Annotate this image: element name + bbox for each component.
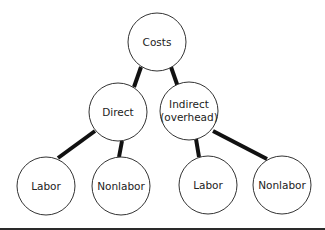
node-direct: Direct — [89, 83, 147, 141]
edge-indirect-nonlabor — [213, 131, 267, 159]
bottom-divider — [0, 228, 325, 230]
edge-direct-nonlabor — [119, 141, 122, 157]
node-direct-label: Direct — [102, 106, 133, 118]
edge-indirect-labor — [196, 139, 199, 157]
edge-direct-labor — [58, 131, 95, 158]
node-indirect-nonlabor: Nonlabor — [253, 156, 311, 214]
edge-costs-direct — [134, 67, 141, 87]
node-indirect-labor: Labor — [179, 156, 237, 214]
node-indirect-label-line1: Indirect — [169, 98, 209, 110]
node-indirect-label-line2: (overhead) — [160, 111, 218, 123]
node-direct-labor: Labor — [17, 157, 75, 215]
node-indirect: Indirect (overhead) — [160, 82, 218, 140]
cost-breakdown-tree: Costs Direct Indirect (overhead) Labor N… — [0, 0, 325, 230]
node-direct-nonlabor-label: Nonlabor — [97, 180, 145, 192]
edge-costs-indirect — [171, 67, 178, 87]
node-indirect-nonlabor-label: Nonlabor — [258, 179, 306, 191]
node-indirect-labor-label: Labor — [193, 179, 223, 191]
node-costs: Costs — [128, 13, 186, 71]
node-direct-nonlabor: Nonlabor — [92, 157, 150, 215]
node-direct-labor-label: Labor — [31, 180, 61, 192]
node-costs-label: Costs — [143, 36, 172, 48]
